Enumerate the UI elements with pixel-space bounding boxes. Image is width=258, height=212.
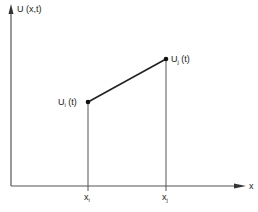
y-axis-label: U (x,t) [17, 4, 42, 14]
y-axis [9, 4, 14, 186]
x-axis-label: x [249, 181, 254, 191]
y-axis-arrow-icon [9, 4, 14, 14]
tick-label-xi: xi [84, 192, 90, 203]
x-axis-arrow-icon [234, 184, 246, 189]
x-axis [11, 184, 246, 189]
interpolation-segment [88, 59, 166, 102]
linear-interpolation-diagram: U (x,t) x Ui (t) Uj (t) xi xj [0, 0, 258, 212]
point-label-uj: Uj (t) [171, 54, 190, 65]
node-point-ui [86, 100, 91, 105]
tick-label-xj: xj [162, 192, 168, 203]
node-point-uj [164, 57, 169, 62]
point-label-ui: Ui (t) [58, 97, 77, 108]
